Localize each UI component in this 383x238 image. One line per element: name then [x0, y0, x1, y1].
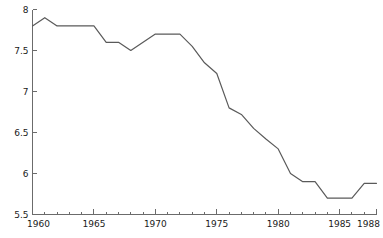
data-series — [33, 18, 377, 198]
x-tick-label: 1965 — [82, 219, 105, 229]
y-tick-label: 7 — [23, 87, 29, 97]
x-tick-label: 1970 — [144, 219, 167, 229]
data-line-series-1 — [33, 18, 377, 198]
y-tick-label: 8 — [23, 5, 29, 15]
x-tick-label: 1960 — [27, 219, 50, 229]
y-tick-label: 6 — [23, 169, 29, 179]
x-tick-label: 1988 — [357, 219, 380, 229]
y-tick-label: 6.5 — [14, 128, 28, 138]
chart-canvas: 5.566.577.58 196019651970197519801985198… — [0, 0, 383, 238]
x-tick-label: 1980 — [267, 219, 290, 229]
x-tick-label: 1975 — [205, 219, 228, 229]
x-axis-tick-labels: 1960196519701975198019851988 — [27, 219, 380, 229]
chart-tick-marks — [33, 10, 377, 215]
y-tick-label: 7.5 — [14, 46, 28, 56]
x-tick-label: 1985 — [328, 219, 351, 229]
y-axis-tick-labels: 5.566.577.58 — [14, 5, 29, 220]
line-chart: 5.566.577.58 196019651970197519801985198… — [0, 0, 383, 238]
chart-axes — [33, 10, 377, 215]
